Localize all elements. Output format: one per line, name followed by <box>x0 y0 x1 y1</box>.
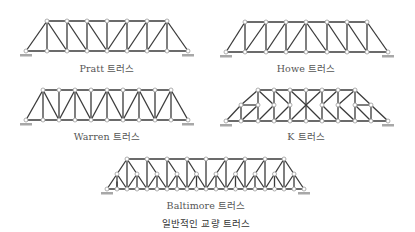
truss-joint <box>302 187 306 191</box>
truss-joint <box>292 187 296 191</box>
truss-joint <box>325 20 329 24</box>
truss-member <box>127 159 137 174</box>
truss-member <box>216 174 226 189</box>
truss-joint <box>353 103 357 107</box>
truss-joint <box>73 88 77 92</box>
truss-joint <box>264 50 268 54</box>
truss-member <box>274 105 290 121</box>
truss-joint <box>353 88 357 92</box>
support-icon <box>182 123 194 126</box>
truss-member <box>147 174 157 189</box>
truss-joint <box>65 49 69 53</box>
truss-member <box>275 174 285 189</box>
truss-joint <box>145 19 149 23</box>
truss-joint <box>195 172 199 176</box>
truss-joint <box>165 19 169 23</box>
truss-member <box>266 22 286 52</box>
truss-joint <box>65 19 69 23</box>
truss-joint <box>105 49 109 53</box>
support-icon <box>182 54 194 57</box>
truss-joint <box>234 172 238 176</box>
truss-joint <box>137 118 141 122</box>
truss-joint <box>273 187 277 191</box>
truss-member <box>306 22 327 52</box>
truss-joint <box>320 88 324 92</box>
truss-joint <box>169 118 173 122</box>
support-icon <box>382 55 394 58</box>
truss-joint <box>204 187 208 191</box>
truss-member <box>290 105 306 121</box>
truss-joint <box>224 187 228 191</box>
truss-joint <box>282 187 286 191</box>
truss-joint <box>186 49 190 53</box>
truss-member <box>26 90 43 120</box>
truss-member <box>226 22 245 52</box>
truss-joint <box>45 49 49 53</box>
truss-joint <box>57 118 61 122</box>
baltimore-truss-label: Baltimore 트러스 <box>167 198 246 212</box>
truss-joint <box>153 88 157 92</box>
support-icon <box>101 192 113 195</box>
truss-joint <box>239 119 243 123</box>
truss-joint <box>243 187 247 191</box>
truss-joint <box>41 118 45 122</box>
truss-joint <box>204 157 208 161</box>
truss-member <box>127 174 137 189</box>
truss-member <box>226 105 241 121</box>
pratt-truss-label: Pratt 트러스 <box>79 61 134 75</box>
truss-joint <box>292 172 296 176</box>
truss-member <box>177 174 187 189</box>
support-icon <box>298 192 310 195</box>
truss-joint <box>214 187 218 191</box>
support-icon <box>220 55 232 58</box>
truss-member <box>347 22 367 52</box>
truss-member <box>147 159 157 174</box>
support-icon <box>220 124 232 127</box>
truss-member <box>137 174 147 189</box>
truss-member <box>167 159 177 174</box>
truss-joint <box>256 119 260 123</box>
baltimore-truss <box>101 157 310 195</box>
truss-joint <box>105 19 109 23</box>
truss-joint <box>243 20 247 24</box>
truss-joint <box>155 187 159 191</box>
truss-member <box>155 90 171 120</box>
truss-member <box>327 22 347 52</box>
truss-member <box>167 174 177 189</box>
howe-truss-label: Howe 트러스 <box>277 61 336 75</box>
truss-joint <box>234 187 238 191</box>
truss-joint <box>175 187 179 191</box>
truss-joint <box>125 19 129 23</box>
truss-joint <box>304 88 308 92</box>
truss-joint <box>224 119 228 123</box>
truss-member <box>338 90 355 105</box>
truss-joint <box>336 119 340 123</box>
truss-joint <box>256 88 260 92</box>
truss-joint <box>85 19 89 23</box>
truss-member <box>286 22 306 52</box>
support-icon <box>382 124 394 127</box>
truss-joint <box>165 49 169 53</box>
support-icon <box>20 54 32 57</box>
truss-joint <box>320 103 324 107</box>
truss-joint <box>155 172 159 176</box>
truss-joint <box>282 157 286 161</box>
truss-member <box>284 174 294 189</box>
truss-joint <box>73 118 77 122</box>
truss-member <box>245 22 266 52</box>
truss-joint <box>165 157 169 161</box>
figure-caption: 일반적인 교량 트러스 <box>162 216 250 230</box>
truss-member <box>355 90 371 105</box>
truss-member <box>241 90 258 105</box>
truss-joint <box>284 20 288 24</box>
truss-member <box>107 90 123 120</box>
truss-joint <box>336 88 340 92</box>
truss-member <box>123 90 139 120</box>
truss-joint <box>288 88 292 92</box>
truss-member <box>265 174 275 189</box>
truss-member <box>139 90 155 120</box>
truss-joint <box>304 50 308 54</box>
truss-member <box>371 105 388 121</box>
truss-member <box>274 90 290 105</box>
truss-joint <box>57 88 61 92</box>
